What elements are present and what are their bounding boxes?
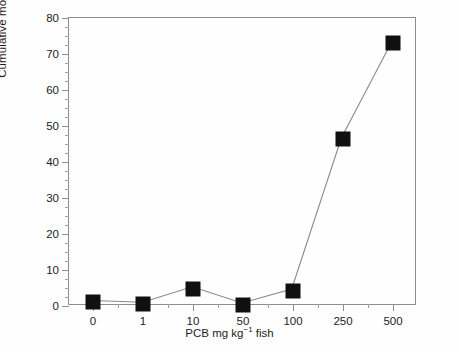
x-tick-minor — [168, 304, 169, 308]
x-tick-minor — [368, 304, 369, 308]
y-tick-major — [62, 18, 69, 19]
y-tick-label: 40 — [46, 156, 59, 168]
data-point-marker — [136, 297, 151, 312]
x-tick-minor — [118, 304, 119, 308]
y-axis-title: Cumulative mortality (%) — [0, 0, 8, 104]
y-tick-major — [62, 126, 69, 127]
y-tick-major — [62, 162, 69, 163]
y-tick-label: 20 — [46, 228, 59, 240]
data-point-marker — [236, 297, 251, 312]
x-tick-minor — [218, 304, 219, 308]
data-point-marker — [286, 283, 301, 298]
x-axis-title-superscript: −1 — [243, 325, 252, 334]
y-tick-major — [62, 306, 69, 307]
x-tick-minor — [268, 304, 269, 308]
y-tick-label: 0 — [53, 300, 59, 312]
y-tick-major — [62, 270, 69, 271]
series-polyline — [93, 43, 391, 303]
y-tick-major — [62, 234, 69, 235]
x-tick-major — [293, 304, 294, 311]
data-point-marker — [86, 295, 101, 310]
x-axis-title-pre: PCB mg kg — [185, 327, 243, 339]
data-point-marker — [386, 36, 401, 51]
data-point-marker — [336, 131, 351, 146]
x-axis-title: PCB mg kg−1 fish — [0, 325, 459, 339]
y-tick-label: 50 — [46, 120, 59, 132]
chart-figure: Cumulative mortality (%) 010203040506070… — [0, 0, 459, 352]
data-point-marker — [186, 281, 201, 296]
y-tick-label: 70 — [46, 48, 59, 60]
y-tick-major — [62, 54, 69, 55]
y-tick-major — [62, 198, 69, 199]
y-tick-major — [62, 90, 69, 91]
x-tick-major — [343, 304, 344, 311]
plot-area: 01020304050607080 011050100250500 — [68, 17, 416, 305]
series-line — [69, 18, 415, 304]
y-tick-label: 60 — [46, 84, 59, 96]
x-tick-major — [193, 304, 194, 311]
x-tick-minor — [318, 304, 319, 308]
y-tick-label: 10 — [46, 264, 59, 276]
y-tick-label: 30 — [46, 192, 59, 204]
x-tick-major — [393, 304, 394, 311]
x-axis-title-post: fish — [253, 327, 274, 339]
y-tick-label: 80 — [46, 12, 59, 24]
